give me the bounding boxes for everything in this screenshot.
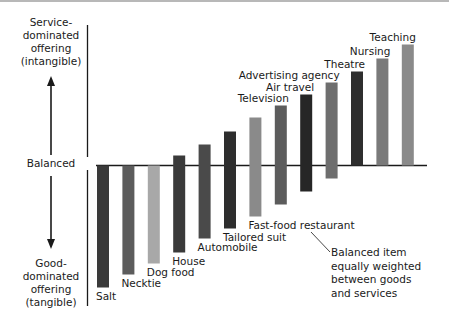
bar-label: Teaching — [370, 31, 416, 43]
bar-television — [275, 106, 287, 205]
label-line: offering — [6, 42, 96, 55]
bar-label: Theatre — [324, 58, 365, 70]
bar-salt — [97, 166, 109, 288]
label-line: (intangible) — [6, 55, 96, 68]
bar-label: Dog food — [147, 266, 195, 278]
balanced-item-annotation: Balanced item equally weighted between g… — [331, 246, 421, 300]
label-line: Service- — [6, 16, 96, 29]
bar-tailored-suit — [224, 132, 236, 229]
bar-necktie — [122, 166, 134, 275]
bar-label: House — [172, 255, 205, 267]
bar-label: Necktie — [121, 277, 161, 289]
up-arrow-icon — [47, 76, 55, 86]
bar-label: Salt — [96, 290, 116, 302]
good-dominated-label: Good- dominated offering (tangible) — [6, 257, 96, 309]
annotation-line: between goods — [331, 273, 421, 287]
annotation-line: equally weighted — [331, 260, 421, 274]
bar-air-travel — [300, 95, 312, 192]
label-line: dominated — [6, 29, 96, 42]
bar-automobile — [199, 145, 211, 239]
annotation-line: Balanced item — [331, 246, 421, 260]
bar-label: Advertising agency — [239, 69, 340, 81]
bar-nursing — [376, 59, 388, 166]
label-line: Good- — [6, 257, 96, 270]
bar-teaching — [402, 45, 414, 166]
bar-fast-food-restaurant — [249, 118, 261, 217]
label-line: (tangible) — [6, 296, 96, 309]
bar-house — [173, 156, 185, 253]
label-line: dominated — [6, 270, 96, 283]
bar-label: Tailored suit — [223, 231, 286, 243]
annotation-leader-line — [311, 232, 330, 252]
bar-label: Fast-food restaurant — [248, 219, 354, 231]
balanced-label: Balanced — [6, 157, 96, 170]
bar-label: Air travel — [266, 81, 314, 93]
bar-label: Nursing — [350, 45, 391, 57]
service-dominated-label: Service- dominated offering (intangible) — [6, 16, 96, 68]
bar-label: Television — [238, 92, 289, 104]
annotation-line: and services — [331, 287, 421, 301]
down-arrow-icon — [47, 239, 55, 249]
bar-theatre — [351, 72, 363, 166]
label-line: offering — [6, 283, 96, 296]
bar-dog-food — [148, 166, 160, 264]
bar-advertising-agency — [326, 83, 338, 179]
